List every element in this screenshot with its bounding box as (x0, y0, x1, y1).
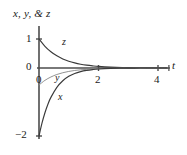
y-tick-label-0: 0 (26, 61, 32, 72)
curve-label-y: y (55, 73, 59, 83)
curves-group (39, 39, 167, 136)
curve-z (39, 39, 167, 68)
y-tick-label-1: 1 (26, 33, 32, 44)
x-tick-label-2: 2 (95, 74, 101, 85)
x-tick-label-0: 0 (36, 74, 42, 85)
figure-container: x, y, & z t 1 0 −2 0 2 4 z y x (0, 0, 187, 155)
curve-label-x: x (58, 92, 62, 102)
x-tick-label-4: 4 (154, 74, 160, 85)
x-axis-label: t (172, 60, 175, 71)
y-axis-label: x, y, & z (13, 8, 51, 19)
y-tick-label-minus-2: −2 (15, 129, 27, 140)
curve-label-z: z (62, 37, 66, 47)
